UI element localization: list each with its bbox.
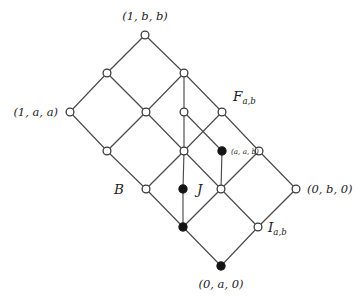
lattice-edge [145, 35, 184, 73]
lattice-edge [184, 73, 222, 112]
nodes-group [66, 31, 300, 270]
lattice-node-l1 [103, 69, 111, 77]
lattice-edge [107, 35, 145, 73]
lattice-node-m2 [180, 108, 188, 116]
lattice-node-fab [218, 108, 226, 116]
node-coord-label-bottom-node: (0, a, 0) [198, 277, 243, 291]
lattice-diagram: (1, b, b)(1, a, a)(0, b, 0)(0, a, 0)(a, … [0, 0, 359, 302]
lattice-edge [221, 151, 222, 189]
lattice-edge [70, 112, 107, 151]
lattice-node-m1 [142, 108, 150, 116]
lattice-edge [146, 112, 184, 151]
lattice-node-m3 [103, 147, 111, 155]
lattice-edge [70, 73, 107, 112]
lattice-edge [183, 151, 184, 189]
lattice-edge [146, 73, 184, 112]
lattice-node-c1 [180, 69, 188, 77]
lattice-edge [146, 189, 183, 227]
label-J: J [194, 181, 204, 197]
lattice-node-j [179, 185, 187, 193]
lattice-diagram-canvas: (1, b, b)(1, a, a)(0, b, 0)(0, a, 0)(a, … [0, 0, 359, 302]
lattice-node-top [141, 31, 149, 39]
node-coord-label-left-node: (1, a, a) [13, 105, 58, 119]
lattice-node-bottom [217, 262, 225, 270]
lattice-node-mid [180, 147, 188, 155]
lattice-node-low [179, 223, 187, 231]
lattice-node-laa [66, 108, 74, 116]
lattice-edge [258, 189, 296, 227]
lattice-node-aab [218, 147, 226, 155]
lattice-node-b [142, 185, 150, 193]
lattice-edge [183, 227, 221, 266]
lattice-edge [221, 189, 258, 227]
lattice-node-iab [254, 223, 262, 231]
label-B: B [113, 181, 124, 197]
lattice-edge [107, 112, 146, 151]
lattice-edge [146, 151, 184, 189]
lattice-edge [107, 73, 146, 112]
node-coord-label-top-node: (1, b, b) [122, 9, 168, 23]
node-coord-label-aab-node: (a, a, b) [231, 147, 259, 156]
lattice-node-0b0 [292, 185, 300, 193]
lattice-edge [221, 227, 258, 266]
lattice-edge [184, 151, 221, 189]
lattice-edge [107, 151, 146, 189]
label-F: Fa,b [232, 88, 256, 106]
node-coord-label-right-node: (0, b, 0) [307, 182, 353, 196]
lattice-node-c2 [217, 185, 225, 193]
lattice-edge [222, 112, 259, 151]
lattice-edge [221, 151, 259, 189]
label-I: Ia,b [267, 219, 287, 237]
lattice-edge [259, 151, 296, 189]
